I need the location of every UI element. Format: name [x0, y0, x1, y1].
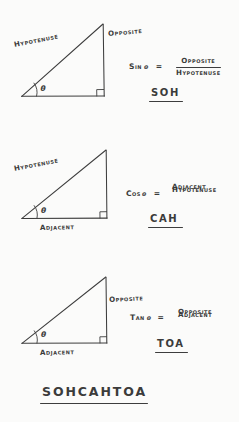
triangle-sine — [22, 24, 105, 96]
equation-tangent-lhs: Tanθ= — [130, 314, 164, 322]
label-adjacent-cosine: Adjacent — [40, 223, 75, 231]
equation-tangent-denominator: Adjacent — [178, 311, 212, 319]
equation-sine-fraction: Opposite Hypotenuse — [176, 57, 221, 77]
label-adjacent-tangent: Adjacent — [40, 348, 75, 356]
mnemonic-soh: SOH — [151, 88, 180, 98]
mnemonic-sohcahtoa: SOHCAHTOA — [42, 386, 147, 399]
mnemonic-soh-underline — [149, 101, 183, 102]
equation-sine-function: Sin — [129, 62, 142, 71]
equation-tangent-function: Tan — [130, 313, 145, 322]
equation-cosine-denominator: Hypotenuse — [172, 186, 217, 194]
mnemonic-cah-underline — [148, 227, 183, 228]
equation-cosine-lhs: Cosθ= — [126, 190, 161, 198]
handwritten-trig-note: Hypotenuse θ Opposite Sinθ= Opposite Hyp… — [0, 0, 239, 422]
label-angle-theta-tangent: θ — [41, 331, 46, 339]
label-opposite-tangent: Opposite — [109, 294, 144, 303]
triangle-tangent — [22, 277, 107, 343]
equation-sine-numerator: Opposite — [176, 57, 221, 65]
equation-sine-angle: θ — [144, 62, 149, 71]
label-angle-theta-sine: θ — [41, 85, 46, 93]
mnemonic-toa: TOA — [157, 339, 185, 349]
equation-tangent-angle: θ — [147, 313, 152, 322]
mnemonic-toa-underline — [155, 352, 188, 353]
equation-cosine-angle: θ — [142, 189, 147, 198]
equation-cosine-function: Cos — [126, 189, 141, 198]
label-angle-theta-cosine: θ — [41, 207, 46, 215]
equation-tangent-equals: = — [158, 313, 165, 322]
mnemonic-sohcahtoa-underline — [40, 403, 148, 404]
equation-cosine-equals: = — [154, 189, 161, 198]
equation-sine-denominator: Hypotenuse — [176, 69, 221, 77]
equation-sine-equals: = — [156, 62, 163, 71]
mnemonic-cah: CAH — [150, 214, 178, 224]
equation-sine-lhs: Sinθ= — [129, 63, 163, 71]
